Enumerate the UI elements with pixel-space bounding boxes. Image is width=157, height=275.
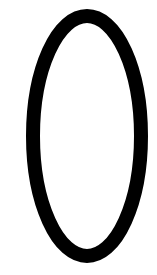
- canvas: [0, 0, 157, 275]
- drawing-surface: [0, 0, 157, 275]
- ellipse-shape: [33, 16, 141, 256]
